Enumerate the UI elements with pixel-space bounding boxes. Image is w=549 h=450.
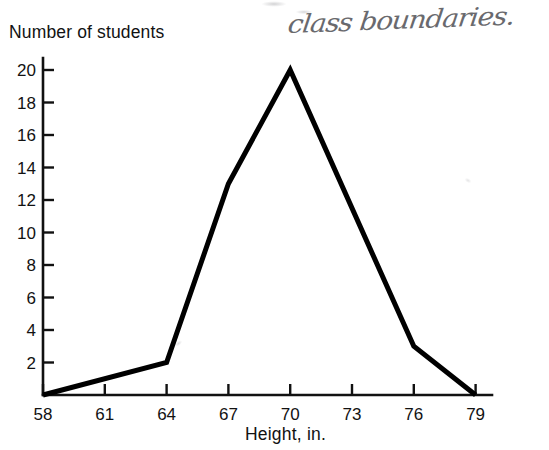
frequency-polygon-chart: Number of students Height, in. class bou… [0,0,549,450]
x-axis-tick-label: 79 [456,406,496,423]
y-axis-tick-label: 6 [2,290,36,307]
x-axis-tick-label: 61 [85,406,125,423]
y-axis-tick-label: 10 [2,225,36,242]
x-axis-tick-label: 64 [147,406,187,423]
y-axis-tick-label: 12 [2,192,36,209]
y-axis-tick-label: 2 [2,355,36,372]
x-axis-tick-label: 58 [23,406,63,423]
x-axis-tick-label: 70 [270,406,310,423]
x-axis-tick-label: 67 [208,406,248,423]
y-axis-tick-label: 18 [2,95,36,112]
x-axis-tick-label: 76 [394,406,434,423]
y-axis-tick-label: 14 [2,160,36,177]
x-axis-ticks [43,384,476,395]
y-axis-tick-label: 20 [2,62,36,79]
plot-area [0,0,549,450]
y-axis-ticks [43,70,54,363]
x-axis-tick-label: 73 [332,406,372,423]
data-series-line [43,70,476,395]
y-axis-tick-label: 8 [2,257,36,274]
y-axis-tick-label: 4 [2,322,36,339]
y-axis-tick-label: 16 [2,127,36,144]
